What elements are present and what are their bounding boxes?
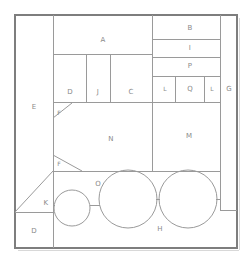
region-label-q: Q	[187, 85, 193, 93]
region-label-a: A	[101, 36, 106, 44]
diagram-canvas: E A B I P L Q L G D J C N M F F K D O H	[0, 0, 252, 264]
region-label-k: K	[44, 199, 49, 207]
vertical-dividers-group	[53, 15, 220, 248]
region-label-d-bottom: D	[31, 227, 37, 235]
region-label-f-upper: F	[57, 109, 61, 116]
region-label-d-top: D	[67, 88, 73, 96]
region-label-g: G	[226, 85, 232, 93]
diagonal-f1	[53, 103, 72, 118]
region-label-b: B	[187, 24, 192, 32]
diagonal-edges-group	[15, 103, 82, 212]
region-label-c: C	[128, 88, 133, 96]
circles-group	[54, 170, 217, 228]
horizontal-dividers-group	[15, 39, 237, 212]
connector-stubs-group	[53, 199, 220, 205]
region-label-h: H	[157, 225, 162, 233]
region-label-l-right: L	[210, 85, 214, 92]
circle-large-1	[99, 170, 157, 228]
region-label-f-lower: F	[57, 160, 61, 167]
packing-layout-diagram: E A B I P L Q L G D J C N M F F K D O H	[0, 0, 252, 264]
region-label-n: N	[108, 135, 113, 143]
region-label-j: J	[96, 88, 99, 96]
outer-frame	[15, 15, 237, 248]
region-label-l-left: L	[163, 85, 167, 92]
region-label-o: O	[95, 180, 101, 188]
region-labels-group: E A B I P L Q L G D J C N M F F K D O H	[31, 24, 232, 235]
region-label-m: M	[186, 132, 192, 140]
region-label-p: P	[188, 62, 192, 70]
region-label-e: E	[32, 103, 37, 111]
circle-large-2	[159, 170, 217, 228]
region-label-i: I	[189, 44, 191, 52]
circle-small	[54, 190, 90, 226]
frame-shadow-group	[18, 18, 239, 250]
